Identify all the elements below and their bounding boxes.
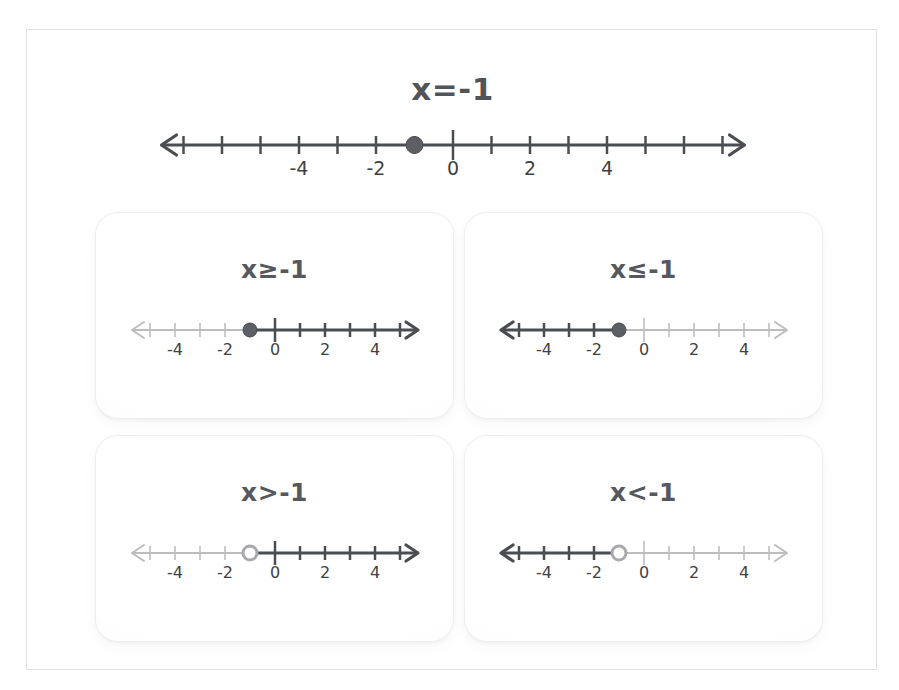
card-greater-or-equal[interactable]: x≥-1 -4-2024 <box>96 213 453 418</box>
svg-text:-2: -2 <box>217 340 233 359</box>
svg-text:-4: -4 <box>289 157 308 179</box>
numberline-equals: -4-2024 <box>149 128 756 180</box>
svg-text:4: 4 <box>738 340 748 359</box>
inequality-card-grid: x≥-1 -4-2024 x≤-1 -4-2024 x>-1 -4-2024 x… <box>96 213 822 641</box>
svg-text:0: 0 <box>638 563 648 582</box>
svg-text:-4: -4 <box>167 340 183 359</box>
svg-text:2: 2 <box>319 563 329 582</box>
numberline-less-or-equal: -4-2024 <box>493 315 795 361</box>
outer-frame: x=-1 -4-2024 x≥-1 -4-2024 x≤-1 -4-2024 x… <box>26 29 877 670</box>
card-less-or-equal[interactable]: x≤-1 -4-2024 <box>465 213 822 418</box>
svg-text:-4: -4 <box>536 563 552 582</box>
svg-text:2: 2 <box>319 340 329 359</box>
svg-text:2: 2 <box>688 340 698 359</box>
svg-text:4: 4 <box>600 157 612 179</box>
numberline-less-than: -4-2024 <box>493 538 795 584</box>
svg-text:2: 2 <box>523 157 535 179</box>
svg-text:-4: -4 <box>167 563 183 582</box>
header-numberline-block: x=-1 -4-2024 <box>27 70 878 200</box>
svg-text:-2: -2 <box>366 157 385 179</box>
svg-text:4: 4 <box>738 563 748 582</box>
page-title: x=-1 <box>27 70 878 108</box>
svg-text:-2: -2 <box>217 563 233 582</box>
svg-text:-4: -4 <box>536 340 552 359</box>
svg-text:0: 0 <box>269 563 279 582</box>
card-less-than[interactable]: x<-1 -4-2024 <box>465 436 822 641</box>
svg-text:4: 4 <box>369 340 379 359</box>
card-title-less-or-equal: x≤-1 <box>465 255 822 285</box>
numberline-greater-than: -4-2024 <box>124 538 426 584</box>
svg-text:-2: -2 <box>586 563 602 582</box>
svg-text:0: 0 <box>638 340 648 359</box>
worksheet-canvas: x=-1 -4-2024 x≥-1 -4-2024 x≤-1 -4-2024 x… <box>0 0 899 690</box>
numberline-greater-or-equal: -4-2024 <box>124 315 426 361</box>
svg-text:0: 0 <box>446 157 458 179</box>
card-greater-than[interactable]: x>-1 -4-2024 <box>96 436 453 641</box>
card-title-greater-than: x>-1 <box>96 478 453 508</box>
svg-text:0: 0 <box>269 340 279 359</box>
card-title-less-than: x<-1 <box>465 478 822 508</box>
svg-text:4: 4 <box>369 563 379 582</box>
svg-text:2: 2 <box>688 563 698 582</box>
card-title-greater-or-equal: x≥-1 <box>96 255 453 285</box>
svg-text:-2: -2 <box>586 340 602 359</box>
